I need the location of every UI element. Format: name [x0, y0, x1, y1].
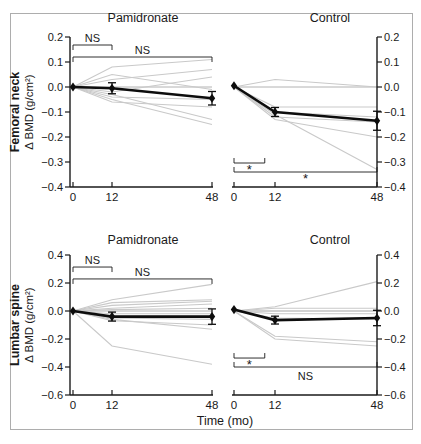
y-tick-label: −0.4: [384, 181, 406, 193]
y-tick-label: 0.2: [48, 31, 63, 43]
y-tick-label: 0.0: [48, 305, 63, 317]
y-tick-label: 0.1: [384, 56, 399, 68]
x-tick-label: 48: [206, 399, 219, 411]
y-tick-label: 0.0: [48, 81, 63, 93]
row-label: Lumbar spine: [8, 284, 22, 366]
mean-marker-diamond: [70, 82, 76, 91]
y-tick-label: −0.4: [41, 361, 63, 373]
y-tick-label: −0.2: [41, 333, 63, 345]
mean-marker-diamond: [70, 306, 76, 315]
significance-bracket: [73, 279, 212, 284]
y-tick-label: −0.3: [41, 156, 63, 168]
panel-femoral-neck-control: Control**0.20.10.0−0.1−0.2−0.3−0.401248: [231, 11, 406, 203]
x-tick-label: 0: [231, 191, 237, 203]
x-tick-label: 12: [269, 399, 282, 411]
y-tick-label: 0.2: [384, 31, 399, 43]
mean-marker-diamond: [209, 94, 215, 103]
significance-bracket: [73, 45, 112, 50]
y-tick-label: −0.2: [384, 333, 406, 345]
individual-patient-line: [234, 87, 377, 137]
y-axis-label: Δ BMD (g/cm²): [23, 287, 35, 363]
significance-label: *: [303, 171, 308, 186]
significance-label: *: [247, 357, 252, 372]
x-tick-label: 0: [70, 191, 76, 203]
panel-title: Pamidronate: [108, 233, 179, 247]
y-tick-label: −0.4: [41, 181, 63, 193]
y-tick-label: −0.2: [41, 131, 63, 143]
x-tick-label: 12: [106, 399, 119, 411]
significance-label: NS: [298, 370, 313, 382]
y-tick-label: −0.1: [41, 106, 63, 118]
y-axis-label: Δ BMD (g/cm²): [23, 74, 35, 150]
panel-lumbar-spine-control: Control*NS0.40.20.0−0.2−0.4−0.601248: [231, 233, 406, 411]
significance-label: *: [247, 162, 252, 177]
panel-femoral-neck-pamidronate: PamidronateNSNS0.20.10.0−0.1−0.2−0.3−0.4…: [41, 11, 218, 203]
significance-label: NS: [85, 32, 100, 44]
y-tick-label: −0.6: [41, 389, 63, 401]
individual-patient-line: [73, 70, 212, 88]
significance-bracket: [73, 267, 112, 272]
y-tick-label: 0.1: [48, 56, 63, 68]
mean-marker-diamond: [272, 316, 278, 325]
y-tick-label: 0.4: [384, 249, 399, 261]
significance-label: NS: [135, 44, 150, 56]
y-tick-label: −0.4: [384, 361, 406, 373]
x-tick-label: 12: [106, 191, 119, 203]
y-tick-label: −0.1: [384, 106, 406, 118]
y-tick-label: 0.0: [384, 81, 399, 93]
panel-title: Control: [310, 11, 350, 25]
panel-title: Control: [310, 233, 350, 247]
y-tick-label: 0.0: [384, 305, 399, 317]
individual-patient-line: [234, 282, 377, 311]
significance-label: NS: [135, 266, 150, 278]
y-tick-label: −0.3: [384, 156, 406, 168]
significance-label: NS: [85, 254, 100, 266]
x-tick-label: 0: [70, 399, 76, 411]
y-tick-label: 0.2: [48, 277, 63, 289]
y-tick-label: 0.2: [384, 277, 399, 289]
bmd-line-chart: Femoral neckΔ BMD (g/cm²)PamidronateNSNS…: [0, 0, 421, 444]
x-tick-label: 48: [206, 191, 219, 203]
panel-title: Pamidronate: [108, 11, 179, 25]
y-tick-label: −0.6: [384, 389, 406, 401]
figure: Femoral neckΔ BMD (g/cm²)PamidronateNSNS…: [0, 0, 421, 444]
x-tick-label: 48: [371, 191, 384, 203]
mean-marker-diamond: [374, 116, 380, 125]
y-tick-label: 0.4: [48, 249, 63, 261]
x-tick-label: 48: [371, 399, 384, 411]
row-femoral-neck: Femoral neckΔ BMD (g/cm²)PamidronateNSNS…: [8, 11, 406, 203]
significance-bracket: [234, 362, 377, 367]
row-lumbar-spine: Lumbar spineΔ BMD (g/cm²)PamidronateNSNS…: [8, 233, 406, 411]
row-label: Femoral neck: [8, 72, 22, 153]
x-axis-title: Time (mo): [197, 414, 253, 428]
x-tick-label: 0: [231, 399, 237, 411]
mean-marker-diamond: [374, 313, 380, 322]
y-tick-label: −0.2: [384, 131, 406, 143]
x-tick-label: 12: [269, 191, 282, 203]
individual-patient-line: [234, 80, 377, 88]
panel-lumbar-spine-pamidronate: PamidronateNSNS0.40.20.0−0.2−0.4−0.60124…: [41, 233, 218, 411]
